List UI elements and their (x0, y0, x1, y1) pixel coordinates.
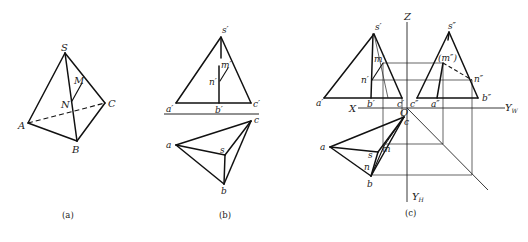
panel-b-two-view: s′ a′ b′ c′ m′ n′ a c s b (b) (164, 25, 260, 220)
label-b-prime: b′ (215, 105, 223, 115)
top-edge-a-s (176, 145, 225, 155)
label-c-top: c (254, 115, 259, 125)
front-edge-s-c (221, 37, 251, 103)
front-edge-s-c (374, 34, 402, 98)
axis-label-x: X (348, 103, 357, 114)
projection-diagram: S A B C M N (a) s′ a′ b′ c′ m′ n′ a c s … (0, 0, 528, 242)
front-line-mn (372, 63, 383, 80)
label-S: S (61, 42, 68, 53)
panel-a-pictorial: S A B C M N (a) (17, 42, 116, 220)
label-a-top: a (320, 142, 325, 152)
label-m-prime: m′ (374, 54, 385, 64)
label-m-top: m (382, 144, 391, 154)
front-edge-s-a (176, 37, 221, 103)
label-m-double-prime: (m″) (438, 53, 457, 63)
side-edge-s-b (449, 32, 478, 98)
label-b-top: b (367, 179, 373, 189)
label-a-prime: a′ (316, 98, 323, 108)
axis-label-yw: YW (505, 102, 519, 114)
panel-c-three-view: Z X O YW YH s′ a′ b′ c′ m′ n′ (316, 11, 519, 218)
label-c-top: c (404, 117, 409, 127)
label-b-prime: b′ (367, 99, 375, 109)
caption-a: (a) (62, 210, 74, 220)
label-c-prime: c′ (253, 99, 260, 109)
label-n-prime: n′ (361, 75, 369, 85)
label-s-top: s (368, 150, 373, 160)
top-edge-b-c (224, 121, 251, 184)
svg-text:YH: YH (412, 191, 425, 203)
edge-BC (77, 103, 105, 141)
label-s-prime: s′ (222, 25, 229, 35)
top-edge-a-b (176, 145, 224, 184)
label-s-prime: s′ (375, 22, 382, 32)
axis-45-degree (407, 108, 488, 190)
label-n-top: n (364, 162, 370, 172)
label-a-double-prime: a″ (431, 99, 440, 109)
front-edge-s-b (371, 34, 373, 98)
label-a-prime: a′ (166, 104, 173, 114)
label-b-double-prime: b″ (482, 93, 492, 103)
label-b-top: b (221, 186, 227, 196)
axis-label-yh: YH (412, 191, 425, 203)
label-M: M (73, 75, 85, 86)
label-C: C (108, 98, 116, 109)
edge-AB (28, 123, 77, 141)
label-c-prime: c′ (397, 99, 404, 109)
side-hidden-line-mn (443, 63, 472, 80)
label-s-double-prime: s″ (448, 21, 457, 31)
axis-label-z: Z (403, 11, 412, 22)
side-edge-s-c (417, 32, 449, 98)
edge-SA (28, 53, 65, 123)
label-B: B (71, 144, 79, 155)
side-edge-s-a (437, 63, 443, 98)
top-edge-s-b (224, 155, 225, 184)
svg-text:YW: YW (505, 102, 519, 114)
label-m-prime: m′ (221, 60, 232, 70)
label-c-double-prime: c″ (410, 99, 419, 109)
label-s-top: s (220, 145, 225, 155)
caption-b: (b) (219, 210, 231, 220)
top-edge-a-c (176, 121, 251, 145)
label-n-double-prime: n″ (474, 74, 484, 84)
label-n-prime: n′ (209, 77, 217, 87)
label-N: N (60, 99, 71, 110)
label-a-top: a (166, 140, 171, 150)
caption-c: (c) (405, 208, 416, 218)
front-edge-s-a (324, 34, 374, 98)
side-edge-s-a-upper (448, 33, 449, 40)
label-A: A (17, 120, 25, 131)
